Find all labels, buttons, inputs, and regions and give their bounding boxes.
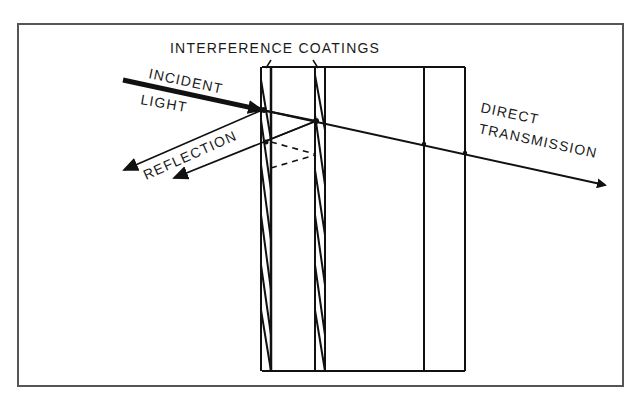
dashed-internal-reflections — [271, 142, 315, 168]
coating-plate-1 — [261, 67, 271, 371]
interference-coatings-diagram: INTERFERENCE COATINGS INCIDENT LIGHT REF… — [0, 0, 640, 406]
coating-plate-2 — [315, 67, 325, 371]
label-transmission: TRANSMISSION — [477, 120, 599, 161]
glass-block — [262, 67, 465, 371]
diagram-title: INTERFERENCE COATINGS — [170, 40, 380, 56]
label-reflection: REFLECTION — [141, 127, 239, 183]
internal-ray-down — [266, 121, 316, 141]
